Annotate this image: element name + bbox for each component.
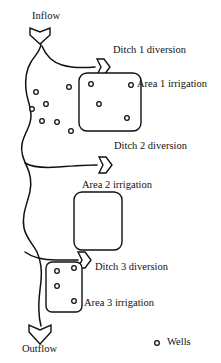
well-marker <box>69 129 74 134</box>
area-3-box <box>46 262 82 312</box>
inflow-label: Inflow <box>32 11 60 22</box>
outflow-label: Outflow <box>22 344 57 355</box>
well-marker <box>97 102 102 107</box>
area-2-box <box>74 192 122 250</box>
legend-wells-label: Wells <box>167 337 191 348</box>
river-left-bank <box>22 44 42 326</box>
well-marker <box>40 119 45 124</box>
outflow-arrow <box>29 325 51 344</box>
well-marker <box>44 102 49 107</box>
well-marker <box>129 83 134 88</box>
well-marker <box>72 299 77 304</box>
irrigation-schematic-diagram: Inflow Ditch 1 diversion Area 1 irrigati… <box>0 0 221 363</box>
well-marker <box>55 284 60 289</box>
inflow-arrow <box>30 28 50 44</box>
ditch-2-diversion-label: Ditch 2 diversion <box>114 141 187 152</box>
well-marker <box>89 82 94 87</box>
well-marker <box>67 85 72 90</box>
well-marker <box>72 266 77 271</box>
river-right-bank-upper <box>42 46 95 68</box>
well-marker <box>125 116 130 121</box>
ditch-3-diversion-label: Ditch 3 diversion <box>95 262 168 273</box>
ditch-2-diversion-arrow <box>99 157 112 173</box>
well-marker <box>34 90 39 95</box>
well-marker <box>55 269 60 274</box>
area-1-box <box>79 73 141 131</box>
area-2-irrigation-label: Area 2 irrigation <box>82 180 152 191</box>
well-marker <box>55 120 60 125</box>
river-right-bank-lower <box>25 252 78 260</box>
ditch-1-diversion-label: Ditch 1 diversion <box>113 45 186 56</box>
river-right-bank-middle <box>25 163 97 168</box>
area-3-irrigation-label: Area 3 irrigation <box>84 298 154 309</box>
legend-well-icon <box>155 341 160 346</box>
well-marker <box>30 107 35 112</box>
area-1-irrigation-label: Area 1 irrigation <box>137 79 207 90</box>
